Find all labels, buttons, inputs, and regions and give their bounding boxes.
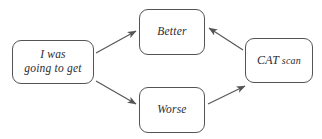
worse-node: Worse: [139, 87, 205, 133]
edge-catscan-to-better: [209, 28, 243, 50]
diagram-canvas: I was going to get Better Worse CAT scan: [0, 0, 322, 139]
source-node: I was going to get: [12, 40, 94, 84]
edge-source-to-worse: [96, 81, 136, 104]
edge-source-to-better: [96, 31, 136, 53]
cat-scan-label-tail: scan: [279, 55, 301, 66]
source-node-label: I was going to get: [24, 48, 81, 75]
cat-scan-node: CAT scan: [245, 38, 313, 83]
cat-scan-node-label: CAT scan: [257, 53, 301, 68]
cat-scan-label-lead: CAT: [257, 53, 279, 67]
better-node: Better: [139, 9, 205, 55]
edge-worse-to-catscan: [208, 86, 245, 104]
worse-node-label: Worse: [157, 103, 186, 117]
better-node-label: Better: [157, 25, 186, 39]
